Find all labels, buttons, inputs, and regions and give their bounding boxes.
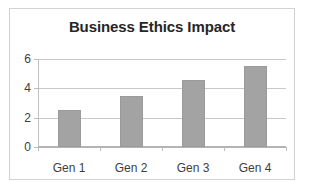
bar-gen-2[interactable] (120, 96, 143, 147)
x-axis-tick (100, 147, 101, 151)
chart-frame: Business Ethics Impact 0246 Gen 1Gen 2Ge… (9, 8, 295, 180)
bar-gen-1[interactable] (58, 110, 81, 147)
bar-gen-4[interactable] (244, 66, 267, 147)
x-axis-tick-label: Gen 4 (239, 162, 272, 174)
y-axis-tick (34, 88, 39, 89)
y-axis-tick-label: 4 (24, 82, 31, 94)
x-axis-tick (286, 147, 287, 151)
plot-area: 0246 Gen 1Gen 2Gen 3Gen 4 (38, 50, 286, 155)
chart-title: Business Ethics Impact (10, 18, 294, 35)
y-axis-tick-label: 6 (24, 53, 31, 65)
x-axis-tick (162, 147, 163, 151)
bar-gen-3[interactable] (182, 80, 205, 147)
y-axis-tick (34, 118, 39, 119)
value-axis-line (38, 59, 39, 147)
gridline (38, 59, 286, 60)
x-axis-tick-label: Gen 2 (115, 162, 148, 174)
y-axis-tick (34, 59, 39, 60)
x-axis-tick-label: Gen 3 (177, 162, 210, 174)
y-axis-tick-label: 0 (24, 141, 31, 153)
y-axis-tick-label: 2 (24, 112, 31, 124)
x-axis-tick (224, 147, 225, 151)
x-axis-tick (38, 147, 39, 151)
x-axis-tick-label: Gen 1 (53, 162, 86, 174)
